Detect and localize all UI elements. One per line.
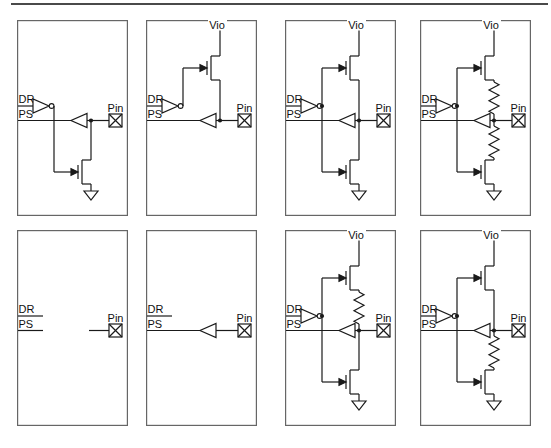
ps-label: PS: [422, 318, 437, 330]
pin-label: Pin: [376, 102, 392, 114]
dr-label: DR: [287, 93, 303, 105]
junction-dot: [357, 118, 361, 122]
vio-label: Vio: [483, 230, 499, 241]
panel-push-pull-pulldown-resistor: DRPSPinVio: [420, 230, 531, 426]
dr-label: DR: [287, 303, 303, 315]
inverter-bubble-icon: [49, 104, 54, 109]
ps-label: PS: [287, 318, 302, 330]
dr-label: DR: [422, 93, 438, 105]
dr-label: DR: [148, 93, 164, 105]
panel-push-pull-output: DRPSPinVio: [285, 20, 396, 216]
dr-label: DR: [19, 93, 35, 105]
vio-label: Vio: [348, 20, 364, 31]
pin-driver-configurations-figure: DRPSPin DRPSPinVio DRPSPinVio DRPSPinVio…: [0, 0, 551, 448]
junction-dot: [320, 104, 324, 108]
ps-label: PS: [148, 318, 163, 330]
junction-dot: [455, 314, 459, 318]
pin-label: Pin: [108, 312, 124, 324]
vio-label: Vio: [483, 20, 499, 31]
ps-label: PS: [19, 318, 34, 330]
panel-disconnected: DRPSPin: [17, 230, 128, 426]
panel-open-source-output: DRPSPinVio: [146, 20, 257, 216]
dr-label: DR: [148, 303, 164, 315]
pin-label: Pin: [511, 102, 527, 114]
junction-dot: [357, 328, 361, 332]
junction-dot: [89, 118, 93, 122]
pin-label: Pin: [376, 312, 392, 324]
panel-input-only: DRPSPin: [146, 230, 257, 426]
ps-label: PS: [287, 108, 302, 120]
pin-label: Pin: [237, 312, 253, 324]
vio-label: Vio: [209, 20, 225, 31]
pin-label: Pin: [108, 102, 124, 114]
ps-label: PS: [148, 108, 163, 120]
panel-open-drain-output: DRPSPin: [17, 20, 128, 216]
dr-label: DR: [19, 303, 35, 315]
junction-dot: [492, 118, 496, 122]
inverter-bubble-icon: [178, 104, 183, 109]
top-rule: [11, 3, 548, 5]
junction-dot: [320, 314, 324, 318]
junction-dot: [218, 118, 222, 122]
ps-label: PS: [19, 108, 34, 120]
panel-push-pull-pullup-resistor: DRPSPinVio: [285, 230, 396, 426]
pin-label: Pin: [237, 102, 253, 114]
dr-label: DR: [422, 303, 438, 315]
junction-dot: [455, 104, 459, 108]
pin-label: Pin: [511, 312, 527, 324]
ps-label: PS: [422, 108, 437, 120]
vio-label: Vio: [348, 230, 364, 241]
junction-dot: [492, 328, 496, 332]
panel-push-pull-series-resistors: DRPSPinVio: [420, 20, 531, 216]
